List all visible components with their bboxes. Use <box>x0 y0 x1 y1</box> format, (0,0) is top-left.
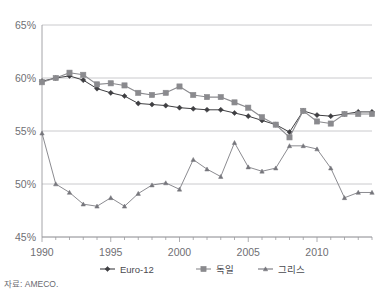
data-point-marker <box>177 105 182 110</box>
y-axis-tick-label: 65% <box>15 19 36 31</box>
data-point-marker <box>149 102 154 107</box>
y-axis-tick-label: 60% <box>15 72 36 84</box>
source-note: 자료: AMECO. <box>4 277 58 289</box>
data-point-marker <box>204 107 209 112</box>
data-point-marker <box>232 100 237 105</box>
y-axis-tick-label: 45% <box>15 231 36 243</box>
data-point-marker <box>94 82 99 87</box>
data-point-marker <box>369 111 374 116</box>
series-line <box>42 73 372 138</box>
data-point-marker <box>218 94 223 99</box>
series-square <box>39 70 374 140</box>
data-point-marker <box>232 140 236 144</box>
data-point-marker <box>122 83 127 88</box>
data-point-marker <box>177 84 182 89</box>
data-point-marker <box>246 105 251 110</box>
data-point-marker <box>218 107 223 112</box>
legend-item-3[interactable]: 그리스 <box>258 264 305 275</box>
data-point-marker <box>287 135 292 140</box>
data-point-marker <box>191 106 196 111</box>
x-axis-tick-label: 1990 <box>30 246 54 258</box>
data-series-group <box>39 70 374 208</box>
legend-label: 독일 <box>216 264 234 275</box>
data-point-marker <box>136 191 140 195</box>
y-axis-tick-label: 50% <box>15 178 36 190</box>
data-point-marker <box>136 90 141 95</box>
data-point-marker <box>40 131 44 135</box>
data-point-marker <box>39 80 44 85</box>
y-axis-tick-label: 55% <box>15 125 36 137</box>
legend-label: 그리스 <box>278 264 305 275</box>
data-point-marker <box>204 94 209 99</box>
x-axis-tick-label: 2010 <box>305 246 329 258</box>
data-point-marker <box>191 157 195 161</box>
line-chart-plot: 45%50%55%60%65% 19901995200020052010 Eur… <box>0 0 381 293</box>
chart-container: 45%50%55%60%65% 19901995200020052010 Eur… <box>0 0 381 293</box>
data-point-marker <box>328 121 333 126</box>
data-point-marker <box>191 92 196 97</box>
data-point-marker <box>67 70 72 75</box>
data-point-marker <box>342 111 347 116</box>
data-point-marker <box>109 196 113 200</box>
data-point-marker <box>219 174 223 178</box>
x-axis-group: 19901995200020052010 <box>30 237 372 258</box>
legend-marker-icon <box>201 266 206 271</box>
data-point-marker <box>246 165 250 169</box>
data-point-marker <box>108 90 113 95</box>
data-point-marker <box>108 81 113 86</box>
data-point-marker <box>163 103 168 108</box>
x-axis-tick-label: 1995 <box>99 246 123 258</box>
data-point-marker <box>273 122 278 127</box>
data-point-marker <box>301 108 306 113</box>
data-point-marker <box>53 75 58 80</box>
data-point-marker <box>177 187 181 191</box>
series-triangle <box>40 131 374 208</box>
series-line <box>42 76 372 132</box>
data-point-marker <box>246 114 251 119</box>
data-point-marker <box>314 113 319 118</box>
data-point-marker <box>314 119 319 124</box>
chart-legend: Euro-12독일그리스 <box>100 264 305 275</box>
data-point-marker <box>136 101 141 106</box>
y-axis-group: 45%50%55%60%65% <box>15 19 42 243</box>
data-point-marker <box>356 111 361 116</box>
x-axis-tick-label: 2005 <box>237 246 261 258</box>
data-point-marker <box>259 115 264 120</box>
legend-item-2[interactable]: 독일 <box>196 264 234 275</box>
data-point-marker <box>67 190 71 194</box>
x-axis-tick-label: 2000 <box>168 246 192 258</box>
data-point-marker <box>274 166 278 170</box>
series-diamond <box>39 73 374 134</box>
data-point-marker <box>149 92 154 97</box>
legend-item-1[interactable]: Euro-12 <box>100 264 154 275</box>
data-point-marker <box>163 90 168 95</box>
data-point-marker <box>122 93 127 98</box>
data-point-marker <box>232 110 237 115</box>
data-point-marker <box>81 72 86 77</box>
legend-label: Euro-12 <box>120 264 154 275</box>
legend-marker-icon <box>105 266 110 271</box>
data-point-marker <box>328 114 333 119</box>
